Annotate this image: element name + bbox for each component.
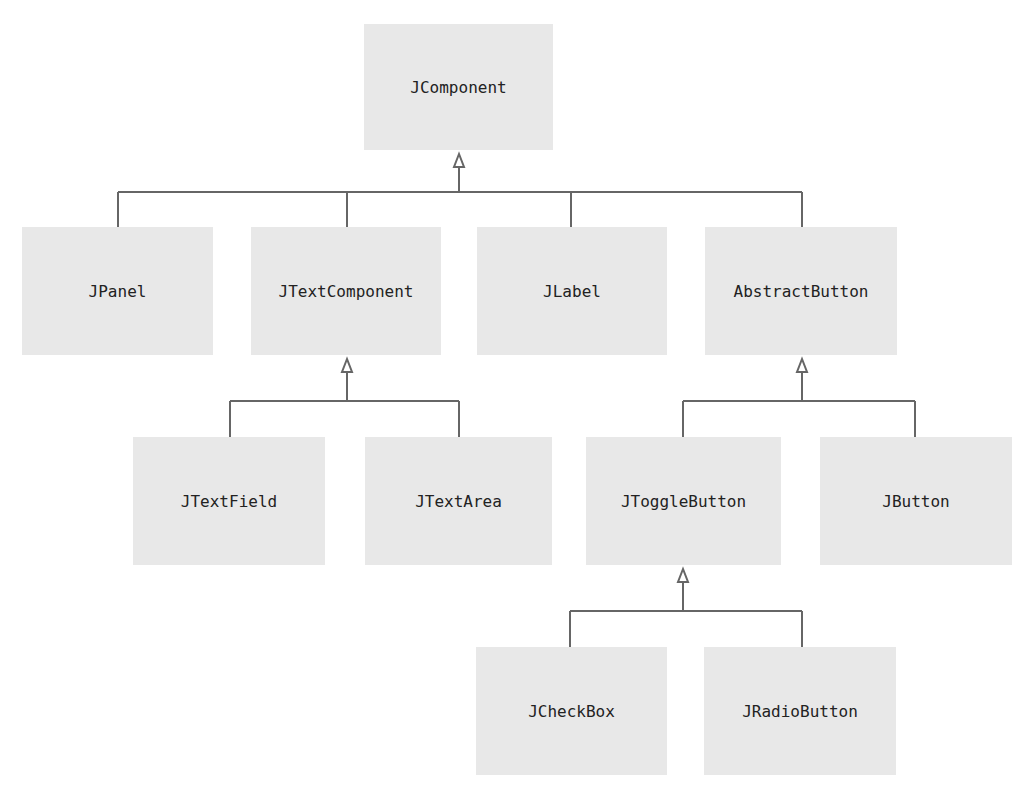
class-box-jtextarea: JTextArea — [365, 437, 552, 565]
class-box-abstractbutton: AbstractButton — [705, 227, 897, 355]
class-label: JCheckBox — [528, 702, 615, 721]
class-label: JLabel — [543, 282, 601, 301]
class-label: JButton — [882, 492, 949, 511]
class-label: AbstractButton — [734, 282, 869, 301]
class-label: JPanel — [89, 282, 147, 301]
class-box-jradiobutton: JRadioButton — [704, 647, 896, 775]
class-box-jcheckbox: JCheckBox — [476, 647, 667, 775]
class-box-jtextfield: JTextField — [133, 437, 325, 565]
class-label: JTextField — [181, 492, 277, 511]
class-label: JTextComponent — [279, 282, 414, 301]
inheritance-arrow-icon — [678, 569, 688, 582]
class-label: JTextArea — [415, 492, 502, 511]
class-box-jlabel: JLabel — [477, 227, 667, 355]
class-box-jpanel: JPanel — [22, 227, 213, 355]
inheritance-arrow-icon — [342, 359, 352, 372]
class-label: JToggleButton — [621, 492, 746, 511]
class-label: JComponent — [410, 78, 506, 97]
class-box-jbutton: JButton — [820, 437, 1012, 565]
inheritance-arrow-icon — [797, 359, 807, 372]
inheritance-arrow-icon — [454, 154, 464, 167]
class-label: JRadioButton — [742, 702, 858, 721]
class-hierarchy-diagram: JComponent JPanel JTextComponent JLabel … — [0, 0, 1028, 800]
class-box-jtextcomponent: JTextComponent — [251, 227, 441, 355]
class-box-jcomponent: JComponent — [364, 24, 553, 150]
class-box-jtogglebutton: JToggleButton — [586, 437, 781, 565]
